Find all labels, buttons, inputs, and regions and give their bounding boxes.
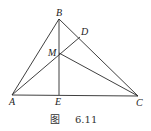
segment-ad — [12, 37, 80, 95]
label-c: C — [136, 97, 143, 108]
geometry-figure: B D M A E C 图 6.11 — [0, 0, 151, 131]
segment-bc — [59, 19, 138, 96]
label-e: E — [54, 96, 61, 107]
caption-prefix: 图 — [50, 114, 60, 125]
label-m: M — [47, 47, 57, 58]
caption-number: 6.11 — [75, 114, 97, 125]
segment-mc — [59, 53, 138, 96]
label-b: B — [56, 7, 62, 18]
label-a: A — [8, 96, 16, 107]
segment-ac — [12, 95, 138, 96]
label-d: D — [80, 26, 89, 37]
